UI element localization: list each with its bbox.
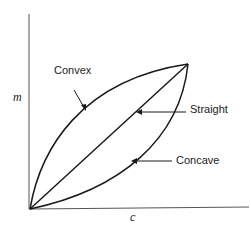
y-axis-label: m bbox=[13, 90, 22, 105]
convex-label: Convex bbox=[54, 64, 91, 76]
diagram-canvas bbox=[0, 0, 251, 233]
x-axis bbox=[29, 207, 249, 209]
straight-label: Straight bbox=[190, 103, 228, 115]
straight-arrow bbox=[136, 109, 186, 115]
concave-arrow bbox=[131, 158, 172, 164]
convex-arrow bbox=[74, 90, 86, 111]
straight-line bbox=[30, 64, 188, 209]
x-axis-label: c bbox=[130, 210, 135, 225]
concave-label: Concave bbox=[176, 154, 219, 166]
